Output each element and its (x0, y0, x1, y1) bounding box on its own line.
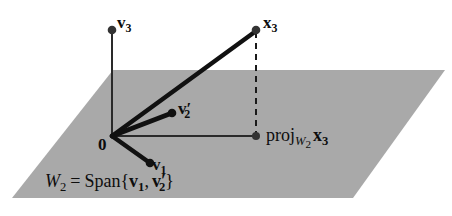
label-v3-base: v (117, 13, 126, 32)
label-x3-base: x (263, 13, 272, 32)
span-close-brace: } (165, 171, 174, 191)
label-origin: 0 (98, 136, 107, 153)
label-span-equation: W2=Span{v1,v′2} (45, 172, 174, 194)
span-open-brace: { (120, 171, 129, 191)
dot-v2prime (168, 109, 177, 118)
label-x3-subscript: 3 (272, 21, 278, 35)
span-set-symbol: W (45, 171, 60, 191)
label-projection-subspace-subscript: 2 (306, 138, 312, 150)
figure-canvas: v3 x3 v′2 v1 0 projW2x3 W2=Span{v1,v′2} (0, 0, 452, 216)
dot-projection (252, 132, 260, 140)
label-projection: projW2x3 (266, 126, 328, 150)
label-v2-prime-subscript: 2 (184, 107, 190, 121)
label-projection-operator: proj (266, 125, 295, 145)
dot-x3 (252, 26, 261, 35)
label-projection-vector: x (313, 125, 322, 145)
label-v3-subscript: 3 (126, 21, 132, 35)
span-equals-sign: = (70, 171, 80, 191)
label-x3: x3 (263, 14, 277, 35)
label-projection-vector-subscript: 3 (322, 134, 328, 148)
span-operator: Span (84, 171, 120, 191)
dot-v3 (108, 26, 117, 35)
label-projection-subspace: W (295, 134, 306, 148)
span-set-subscript: 2 (60, 180, 66, 194)
span-first-vector: v (129, 171, 138, 191)
label-v3: v3 (117, 14, 131, 35)
span-comma: , (144, 171, 149, 191)
label-v2-prime: v′2 (178, 100, 190, 121)
